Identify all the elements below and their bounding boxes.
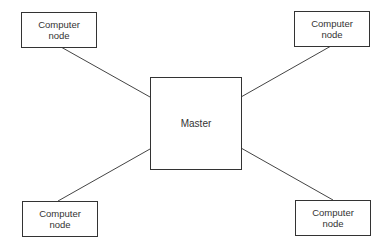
node-label: Computer node: [311, 18, 353, 40]
computer-node-top-left: Computer node: [21, 12, 97, 48]
edge-bottom-left-to-master: [58, 149, 150, 201]
master-label: Master: [181, 118, 212, 129]
computer-node-bottom-right: Computer node: [295, 200, 371, 236]
edge-top-right-to-master: [241, 46, 331, 97]
node-label: Computer node: [39, 208, 81, 230]
edge-top-left-to-master: [61, 47, 150, 97]
edge-bottom-right-to-master: [241, 148, 333, 200]
node-label: Computer node: [38, 19, 80, 41]
computer-node-bottom-left: Computer node: [22, 201, 98, 237]
computer-node-top-right: Computer node: [294, 11, 370, 47]
node-label: Computer node: [312, 207, 354, 229]
master-box: Master: [150, 77, 242, 170]
